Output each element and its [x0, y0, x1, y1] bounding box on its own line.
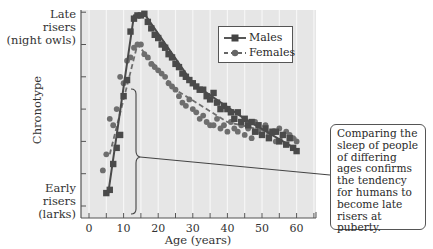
male-data-point — [262, 125, 268, 131]
female-data-point — [294, 139, 300, 145]
male-data-point — [169, 54, 175, 60]
male-data-point — [155, 35, 161, 41]
female-data-point — [186, 97, 192, 103]
legend-swatches — [223, 32, 249, 60]
male-data-point — [200, 87, 206, 93]
female-data-point — [214, 116, 220, 122]
male-data-point — [283, 141, 289, 147]
female-data-point — [225, 129, 231, 135]
female-data-point — [242, 132, 248, 138]
male-data-point — [145, 19, 151, 25]
female-data-point — [211, 122, 217, 128]
male-data-point — [273, 129, 279, 135]
male-data-point — [107, 187, 113, 193]
female-data-point — [117, 74, 123, 80]
female-data-point — [235, 129, 241, 135]
male-data-point — [162, 45, 168, 51]
annotation-callout: Comparing the sleep of people of differi… — [330, 124, 426, 230]
female-data-point — [200, 113, 206, 119]
y-label-line: (night owls) — [7, 34, 76, 47]
female-data-point — [103, 151, 109, 157]
male-data-point — [124, 77, 130, 83]
y-axis-title: Chronotype — [30, 76, 44, 144]
male-data-point — [242, 116, 248, 122]
female-data-point — [100, 168, 106, 174]
y-label-early-risers: Early risers (larks) — [38, 182, 76, 221]
male-data-point — [113, 145, 119, 151]
male-data-point — [259, 132, 265, 138]
x-tick-label: 50 — [255, 222, 269, 235]
male-data-point — [276, 138, 282, 144]
female-data-point — [173, 87, 179, 93]
x-axis-title: Age (years) — [164, 233, 232, 247]
female-data-point — [162, 74, 168, 80]
female-data-point — [110, 122, 116, 128]
male-data-point — [214, 99, 220, 105]
female-data-point — [221, 122, 227, 128]
legend-females-swatch — [224, 50, 246, 56]
male-data-point — [280, 132, 286, 138]
legend: Males Females — [218, 26, 293, 63]
female-data-point — [138, 42, 144, 48]
male-data-point — [148, 25, 154, 31]
y-label-line: (larks) — [38, 208, 76, 221]
male-data-point — [252, 129, 258, 135]
x-tick-label: 0 — [86, 222, 93, 235]
male-data-point — [110, 161, 116, 167]
female-data-point — [176, 93, 182, 99]
male-data-point — [176, 64, 182, 70]
female-data-point — [114, 106, 120, 112]
male-data-point — [255, 122, 261, 128]
female-data-point — [107, 116, 113, 122]
male-data-point — [286, 135, 292, 141]
male-data-point — [266, 135, 272, 141]
male-data-point — [231, 116, 237, 122]
legend-males-label: Males — [249, 31, 283, 44]
female-data-point — [249, 135, 255, 141]
male-data-point — [228, 109, 234, 115]
x-tick-label: 10 — [117, 222, 131, 235]
male-data-point — [117, 132, 123, 138]
female-data-point — [145, 55, 151, 61]
male-data-point — [141, 11, 147, 17]
male-data-point — [210, 90, 216, 96]
legend-females-label: Females — [249, 46, 295, 59]
male-data-point — [127, 28, 133, 34]
male-data-point — [235, 109, 241, 115]
legend-males-swatch — [224, 35, 246, 42]
y-label-late-risers: Late risers (night owls) — [7, 8, 76, 47]
x-tick-label: 20 — [151, 222, 165, 235]
male-data-point — [293, 148, 299, 154]
female-data-point — [193, 109, 199, 115]
male-data-point — [207, 96, 213, 102]
male-data-point — [120, 93, 126, 99]
male-data-point — [248, 119, 254, 125]
female-data-point — [183, 103, 189, 109]
x-tick-label: 60 — [290, 222, 304, 235]
